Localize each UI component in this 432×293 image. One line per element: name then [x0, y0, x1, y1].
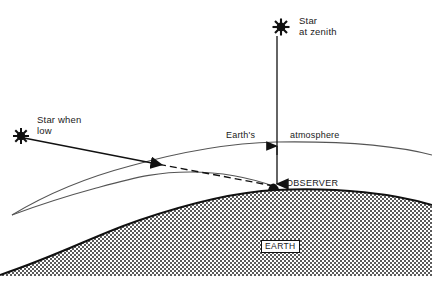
label-star-when-low: Star when low — [37, 114, 82, 136]
label-earths: Earth's — [226, 130, 255, 141]
label-atmosphere: atmosphere — [290, 130, 340, 141]
star-burst-icon-zenith — [273, 19, 290, 36]
diagram-canvas — [0, 0, 432, 293]
earth-body — [0, 189, 432, 276]
label-observer: OBSERVER — [286, 178, 338, 189]
star-burst-icon-low — [13, 128, 29, 144]
label-earth: EARTH — [261, 240, 300, 253]
apparent-direction-dashed-line — [152, 163, 274, 186]
incoming-ray-low-star — [24, 138, 152, 163]
label-star-at-zenith: Star at zenith — [299, 15, 337, 37]
refraction-diagram: Star when low Star at zenith Earth's atm… — [0, 0, 432, 293]
